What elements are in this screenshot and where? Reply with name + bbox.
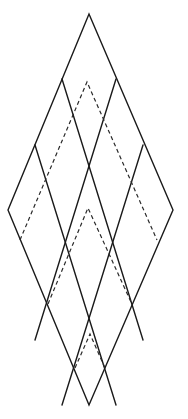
- diagram-canvas: [0, 0, 188, 419]
- grid-lines: [35, 79, 143, 405]
- rhombus-grid-diagram: [0, 0, 188, 419]
- rhombus-outline: [8, 14, 173, 405]
- grid-line-3: [35, 79, 116, 340]
- grid-line-4: [62, 145, 143, 405]
